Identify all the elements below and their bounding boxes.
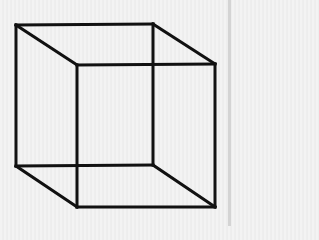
back-bottom-edge [16, 165, 153, 166]
top-left-depth-edge [16, 25, 77, 65]
bottom-right-depth-edge [153, 165, 215, 207]
right-border [228, 0, 231, 226]
bottom-left-depth-edge [16, 166, 77, 207]
front-top-edge [77, 64, 215, 65]
necker-cube-drawing [0, 0, 231, 226]
diagram-canvas [0, 0, 231, 226]
back-top-edge [16, 24, 153, 25]
top-right-depth-edge [153, 24, 215, 64]
